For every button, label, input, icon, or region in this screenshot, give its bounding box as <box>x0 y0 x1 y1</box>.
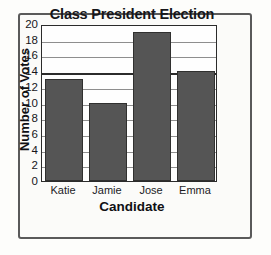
chart-page: Class President Election Number of Votes… <box>0 0 271 255</box>
x-tick-label: Jose <box>129 184 173 196</box>
x-tick-label: Jamie <box>85 184 129 196</box>
y-tick-label: 10 <box>14 98 38 110</box>
y-tick-label: 0 <box>14 176 38 188</box>
y-tick-label: 2 <box>14 161 38 173</box>
x-axis-title: Candidate <box>34 199 230 214</box>
y-tick-label: 16 <box>14 51 38 63</box>
y-tick-label: 6 <box>14 129 38 141</box>
y-tick-label: 18 <box>14 35 38 47</box>
plot-area <box>41 25 217 182</box>
bar <box>133 32 171 181</box>
bar <box>177 71 215 181</box>
y-tick-label: 4 <box>14 145 38 157</box>
x-tick-label: Katie <box>41 184 85 196</box>
bar-series <box>42 26 216 181</box>
chart-title: Class President Election <box>34 6 230 22</box>
y-tick-label: 8 <box>14 113 38 125</box>
bar <box>89 103 127 182</box>
y-axis-tick-labels: 02468101214161820 <box>14 25 38 182</box>
y-tick-label: 20 <box>14 19 38 31</box>
y-tick-label: 12 <box>14 82 38 94</box>
x-tick-label: Emma <box>173 184 217 196</box>
y-tick-label: 14 <box>14 66 38 78</box>
bar <box>45 79 83 181</box>
x-axis-tick-labels: KatieJamieJoseEmma <box>41 184 217 200</box>
